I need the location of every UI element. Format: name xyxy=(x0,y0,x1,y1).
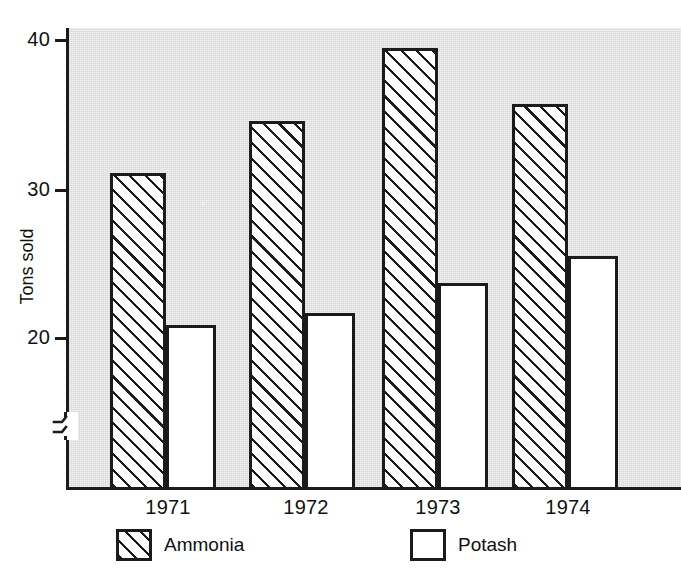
legend-label-ammonia: Ammonia xyxy=(164,534,244,556)
bar-potash-1971 xyxy=(166,325,216,490)
x-tick-label-1973: 1973 xyxy=(388,496,488,519)
bar-ammonia-1973 xyxy=(382,48,438,490)
x-axis-line xyxy=(66,487,681,490)
y-tick-mark-30 xyxy=(55,189,69,192)
chart-legend: Ammonia Potash xyxy=(0,525,681,571)
empty-square-icon xyxy=(410,529,446,561)
legend-item-potash: Potash xyxy=(410,529,517,561)
axis-break-squiggle-icon xyxy=(52,412,78,440)
y-tick-mark-20 xyxy=(55,337,69,340)
y-axis-title: Tons sold xyxy=(17,192,38,342)
bar-ammonia-1972 xyxy=(249,121,305,490)
legend-label-potash: Potash xyxy=(458,534,517,556)
x-tick-label-1972: 1972 xyxy=(256,496,356,519)
bar-potash-1972 xyxy=(305,313,355,490)
y-tick-label-40: 40 xyxy=(4,28,50,51)
bar-potash-1973 xyxy=(438,283,488,490)
bar-ammonia-1974 xyxy=(512,104,568,490)
bar-chart: 40 30 20 Tons sold 1971 1972 1973 1974 A… xyxy=(0,0,681,572)
bar-ammonia-1971 xyxy=(110,173,166,490)
hatched-square-icon xyxy=(116,529,152,561)
x-tick-label-1971: 1971 xyxy=(118,496,218,519)
y-tick-mark-40 xyxy=(55,39,69,42)
bar-potash-1974 xyxy=(568,256,618,490)
legend-item-ammonia: Ammonia xyxy=(116,529,244,561)
x-tick-label-1974: 1974 xyxy=(518,496,618,519)
